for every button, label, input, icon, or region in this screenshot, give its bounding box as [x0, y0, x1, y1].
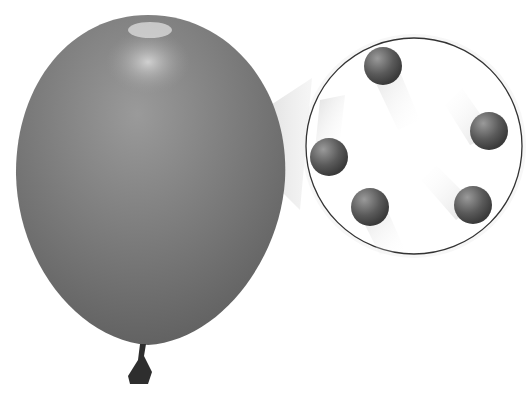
particle	[310, 138, 348, 176]
particle	[470, 112, 508, 150]
particle	[351, 188, 389, 226]
particle	[454, 186, 492, 224]
illustration-canvas	[0, 0, 526, 393]
balloon-highlight	[106, 30, 190, 94]
particle	[364, 47, 402, 85]
balloon-illustration	[0, 0, 526, 393]
balloon-knot	[128, 344, 152, 384]
balloon	[16, 15, 285, 384]
